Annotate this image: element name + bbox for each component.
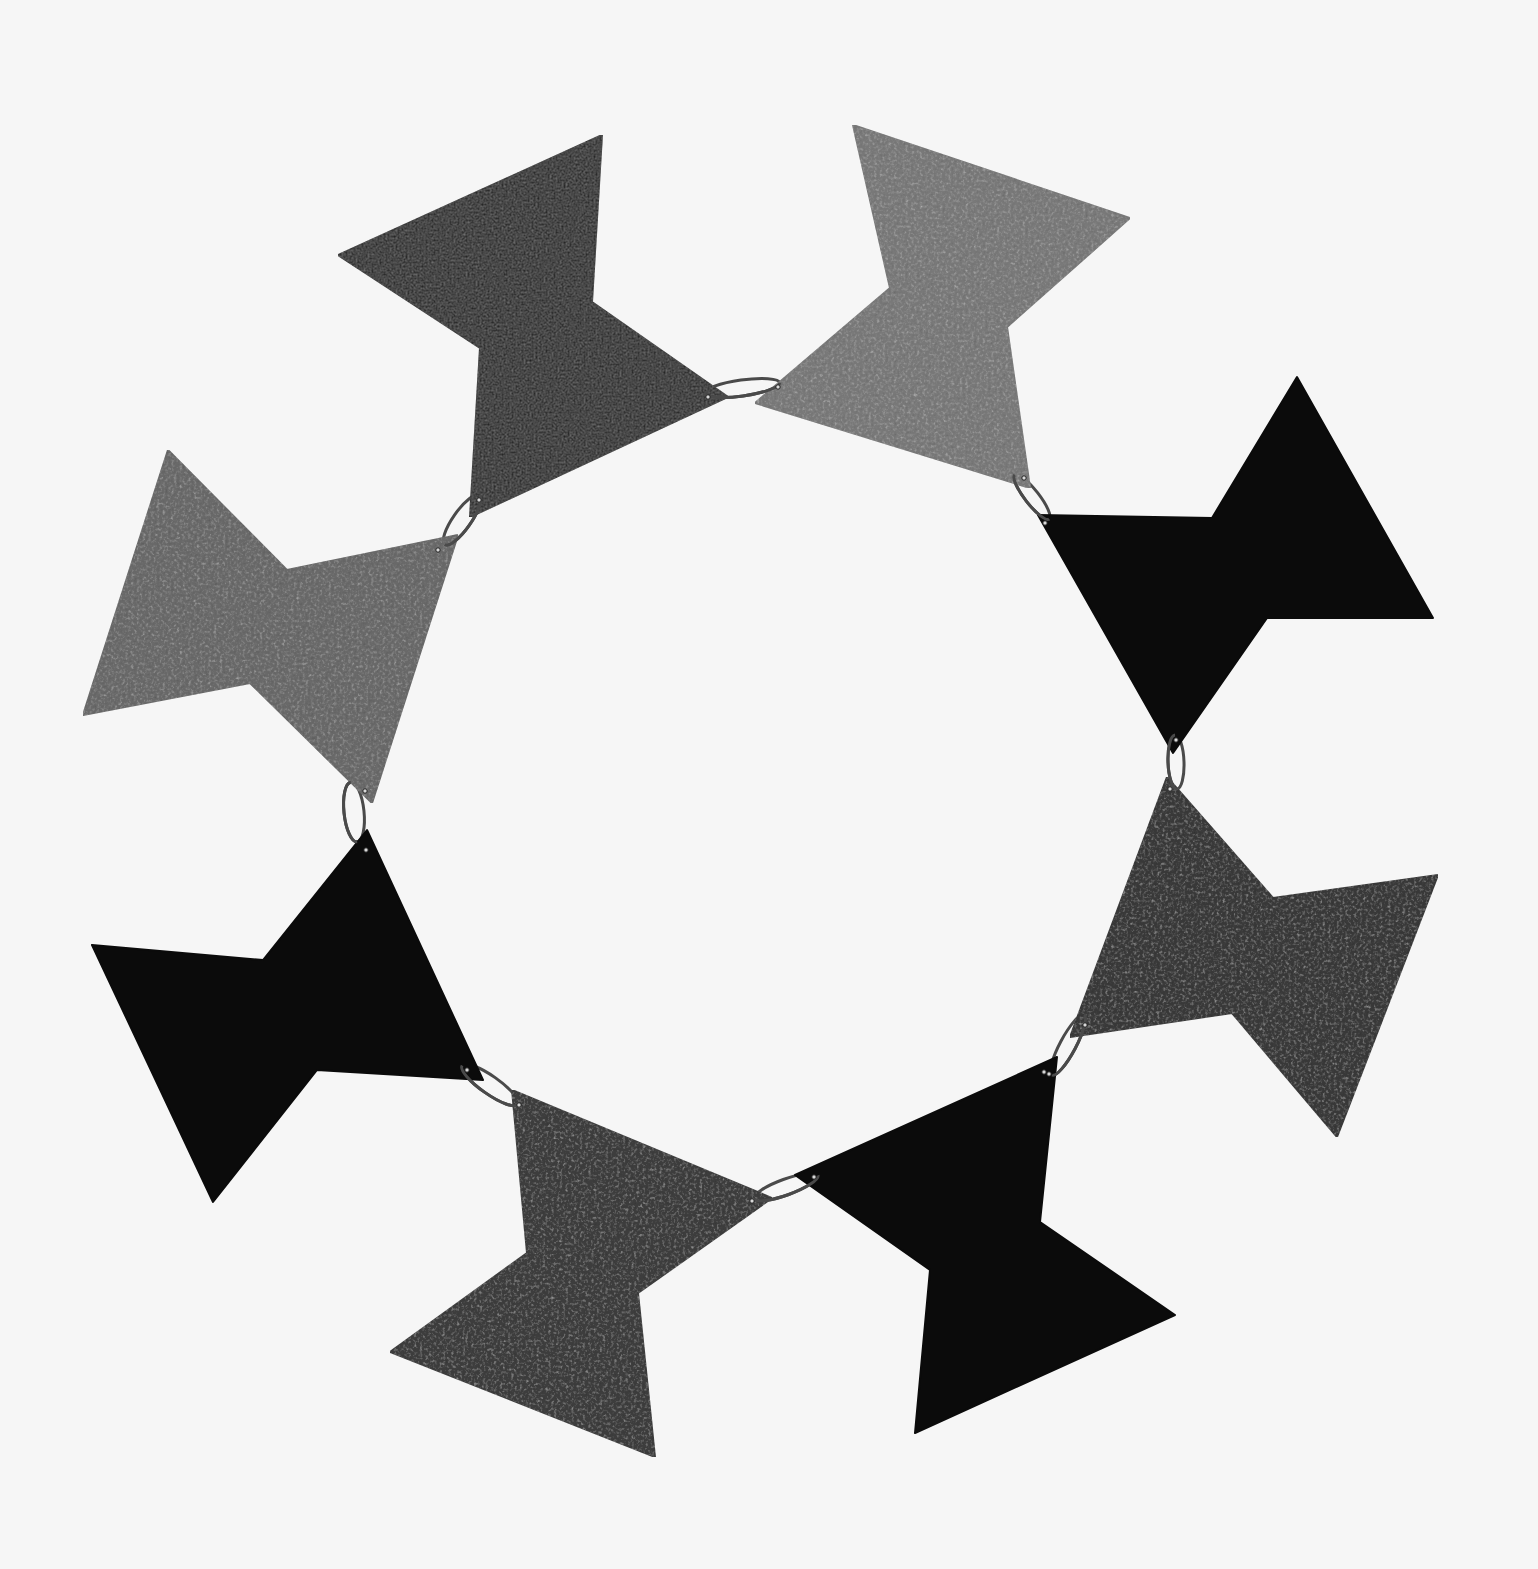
plate-hole [1042,1070,1046,1074]
plate-hole [776,385,780,389]
necklace-photo [0,0,1538,1569]
plate-hole [465,1068,469,1072]
plate-hole [517,1103,521,1107]
plate-hole [363,789,367,793]
plate-hole [436,548,440,552]
plate-hole [706,395,710,399]
background [0,0,1538,1569]
plate-hole [1043,521,1047,525]
plate-hole [364,848,368,852]
plate-hole [1083,1023,1087,1027]
plate-hole [812,1175,816,1179]
plate-hole [1022,476,1026,480]
plate-hole [750,1199,754,1203]
plate-hole [1047,1072,1051,1076]
plate-hole [477,498,481,502]
plate-hole [1174,738,1178,742]
plate-hole [1168,787,1172,791]
